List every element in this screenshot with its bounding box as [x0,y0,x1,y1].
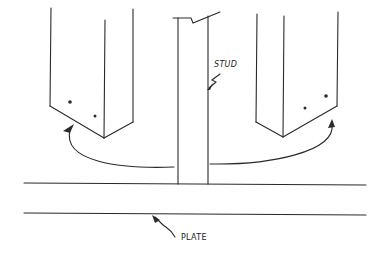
right-block [256,12,338,137]
nail-dot [68,100,72,104]
stud-label: STUD [214,60,237,69]
plate-label: PLATE [181,233,207,242]
plate [24,183,366,215]
diagram-drawing [0,0,382,261]
arrowhead-right [328,119,335,128]
nail-dot [94,115,97,118]
arrowhead-plate [152,215,160,223]
arrowhead-left [63,124,74,133]
left-block [50,8,133,138]
curved-arrow-left [69,130,174,167]
nail-dot [324,94,328,98]
nail-dot [304,107,307,110]
stud-plate-diagram: STUD PLATE [0,0,382,261]
stud [173,12,220,184]
